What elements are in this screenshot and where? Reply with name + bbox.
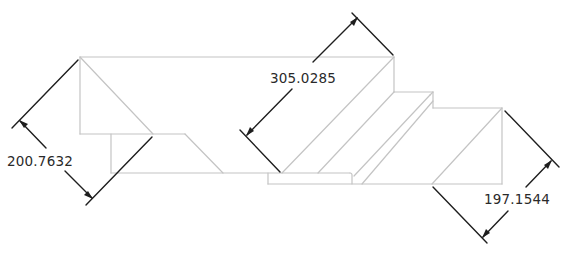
arrowhead-icon <box>19 120 28 128</box>
dimension-line <box>313 18 357 62</box>
extension-line <box>240 130 280 172</box>
extension-line <box>352 13 393 55</box>
cad-drawing-canvas: 200.7632 305.0285 197.1544 <box>0 0 571 258</box>
extension-line <box>433 187 487 243</box>
dimension-label: 197.1544 <box>484 191 550 207</box>
dimension-right[interactable]: 197.1544 <box>433 111 559 243</box>
extension-line <box>86 137 152 205</box>
dimension-label: 200.7632 <box>7 153 73 169</box>
extension-line <box>505 111 559 167</box>
extension-line <box>12 60 78 128</box>
dimension-middle[interactable]: 305.0285 <box>240 13 393 172</box>
dimension-label: 305.0285 <box>270 70 336 86</box>
dimension-line <box>247 89 292 135</box>
